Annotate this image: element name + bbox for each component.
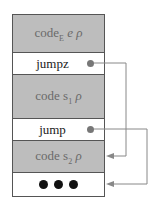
jump-arrows: [0, 0, 157, 209]
jumpz-arrow-icon: [94, 63, 126, 156]
